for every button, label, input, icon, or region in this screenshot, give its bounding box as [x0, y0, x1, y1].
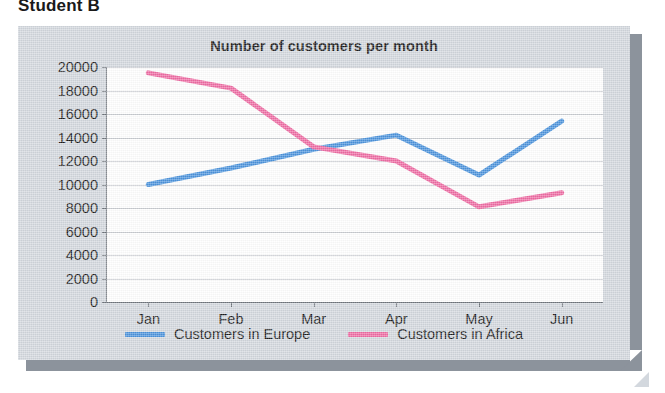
page-heading: Student B	[18, 0, 100, 14]
plot-area: 2000018000160001400012000100008000600040…	[106, 67, 603, 303]
series-lines-group	[107, 67, 603, 302]
y-axis-tick-label: 12000	[58, 153, 98, 169]
legend-item[interactable]: Customers in Africa	[348, 326, 523, 342]
x-axis-tick	[562, 302, 563, 307]
y-axis-tick-label: 8000	[66, 200, 98, 216]
y-axis-tick-label: 0	[90, 294, 98, 310]
y-axis-tick-label: 10000	[58, 177, 98, 193]
y-axis-tick	[102, 302, 107, 303]
x-axis-tick-label: Jun	[550, 311, 573, 327]
x-axis-tick-label: Jan	[137, 311, 160, 327]
x-axis-tick	[479, 302, 480, 307]
legend-swatch	[125, 332, 165, 337]
legend-item[interactable]: Customers in Europe	[125, 326, 310, 342]
chart-figure-panel: Number of customers per month 2000018000…	[18, 26, 630, 360]
legend-swatch	[348, 332, 388, 337]
x-axis-tick	[396, 302, 397, 307]
y-axis-tick-label: 18000	[58, 83, 98, 99]
panel-shadow-bottom	[26, 360, 630, 371]
x-axis-tick-label: Feb	[219, 311, 244, 327]
legend-label: Customers in Europe	[174, 326, 310, 342]
x-axis-tick-label: Apr	[385, 311, 408, 327]
x-axis-tick-label: Mar	[301, 311, 326, 327]
x-axis-tick	[231, 302, 232, 307]
y-axis-tick-label: 4000	[66, 247, 98, 263]
legend-label: Customers in Africa	[397, 326, 523, 342]
y-axis-tick-label: 2000	[66, 271, 98, 287]
chart-legend: Customers in EuropeCustomers in Africa	[18, 326, 630, 342]
y-axis-tick-label: 16000	[58, 106, 98, 122]
x-axis-tick	[148, 302, 149, 307]
y-axis-tick-label: 6000	[66, 224, 98, 240]
panel-shadow-right	[630, 34, 642, 350]
y-axis-tick-label: 20000	[58, 59, 98, 75]
y-axis-tick-label: 14000	[58, 130, 98, 146]
panel-bevel-corner	[634, 372, 649, 387]
x-axis-tick	[314, 302, 315, 307]
x-axis-tick-label: May	[465, 311, 492, 327]
chart-title: Number of customers per month	[18, 38, 630, 54]
